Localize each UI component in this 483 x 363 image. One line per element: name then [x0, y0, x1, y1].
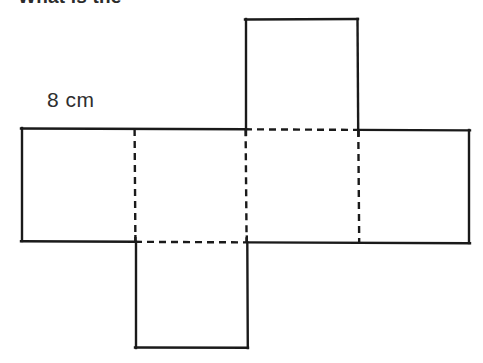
bottom-square-right-edge — [247, 242, 248, 348]
worksheet-figure-page: What is the 8 cm — [0, 0, 483, 363]
fold-line-vertical-1 — [135, 129, 136, 242]
fold-line-horizontal-bottom — [135, 242, 248, 243]
fold-line-vertical-2 — [246, 129, 247, 242]
band-top-edge-left — [21, 129, 245, 130]
net-fold-lines — [135, 129, 360, 243]
fold-line-vertical-3 — [358, 130, 359, 243]
band-top-edge-right — [358, 130, 470, 131]
top-square-top-edge — [245, 19, 358, 20]
band-bottom-edge-left — [21, 241, 135, 242]
fold-line-horizontal-top — [245, 129, 359, 130]
cube-net-diagram — [0, 0, 483, 363]
top-square-right-edge — [358, 19, 359, 130]
